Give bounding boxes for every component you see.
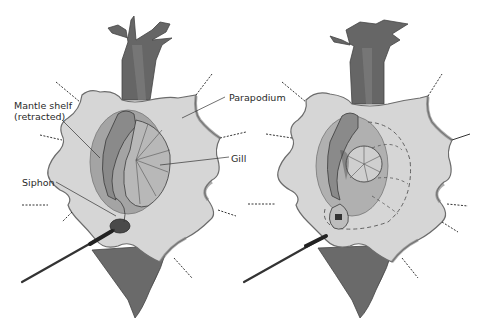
label-mantle-shelf: Mantle shelf (14, 100, 72, 111)
label-mantle-shelf-retracted: (retracted) (14, 111, 65, 122)
aplysia-dissection-figure (0, 0, 482, 331)
label-gill: Gill (231, 153, 246, 164)
label-parapodium: Parapodium (229, 92, 286, 103)
label-siphon: Siphon (22, 177, 55, 188)
head-right (330, 20, 408, 104)
head-left (108, 16, 172, 100)
left-panel (22, 16, 246, 318)
right-panel (244, 20, 470, 318)
